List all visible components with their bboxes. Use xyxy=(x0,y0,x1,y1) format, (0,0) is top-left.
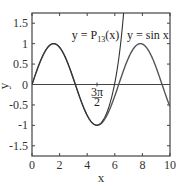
y-tick-label: 1 xyxy=(22,37,28,51)
y-tick-label: 0.5 xyxy=(13,57,28,71)
x-tick-label: 4 xyxy=(84,158,90,172)
y-tick-label: -1.5 xyxy=(9,139,28,153)
p13-label: y = P13(x) xyxy=(72,28,119,44)
x-tick-label: 6 xyxy=(112,158,118,172)
curves xyxy=(32,0,170,125)
y-tick-label: 0 xyxy=(22,78,28,92)
x-axis-label: x xyxy=(98,170,105,185)
y-tick-label: 1.5 xyxy=(13,16,28,30)
three-pi-over-two-denominator: 2 xyxy=(94,95,100,109)
y-tick-label: -1 xyxy=(18,118,28,132)
x-tick-label: 2 xyxy=(57,158,63,172)
x-tick-label: 0 xyxy=(29,158,35,172)
chart: 0246810-1.5-1-0.500.511.5 y = P13(x)y = … xyxy=(0,0,183,186)
x-tick-label: 10 xyxy=(164,158,176,172)
x-tick-label: 8 xyxy=(139,158,145,172)
y-axis-label: y xyxy=(0,82,11,89)
sin-label: y = sin x xyxy=(127,28,169,42)
p13-curve xyxy=(32,0,170,125)
y-tick-label: -0.5 xyxy=(9,98,28,112)
annotations: y = P13(x)y = sin x3π2 xyxy=(72,28,169,109)
